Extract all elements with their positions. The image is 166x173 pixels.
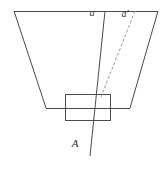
ray-a-solid-line bbox=[90, 11, 105, 156]
ray-a-prime-dashed-line bbox=[101, 11, 135, 97]
ray-a-label: a bbox=[90, 8, 95, 18]
trapezoid-left-edge bbox=[14, 11, 46, 108]
trapezoid-right-edge bbox=[130, 11, 158, 108]
diagram-svg bbox=[0, 0, 166, 173]
point-a-label: A bbox=[72, 138, 79, 149]
ray-a-prime-label: a' bbox=[121, 9, 128, 19]
figure-canvas: a a' A bbox=[0, 0, 166, 173]
